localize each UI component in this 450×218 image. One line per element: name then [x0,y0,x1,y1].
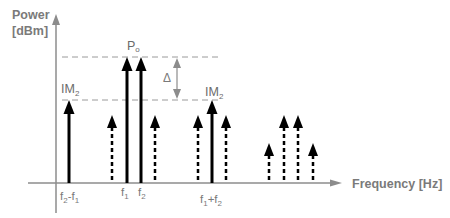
y-axis-arrowhead-icon [52,14,60,25]
arrowhead-icon [221,115,231,128]
im2-right-label: IM2 [205,85,224,101]
arrowhead-icon [136,57,147,71]
arrowhead-icon [207,100,218,114]
x-axis [28,180,342,187]
spur-line [107,115,117,183]
spur-line [193,115,203,183]
arrowhead-icon [107,115,117,128]
x-axis-arrowhead-icon [330,180,342,187]
im2-left-label: IM2 [61,82,80,98]
arrowhead-icon [264,143,274,156]
arrowhead-icon [64,100,75,114]
x-axis-label: Frequency [Hz] [352,177,442,191]
arrowhead-icon [279,115,289,128]
spectral-line-f2-minus-f1 [64,100,75,183]
intermodulation-spectrum-diagram: Power [dBm] Frequency [Hz] Δ [0,0,450,218]
f2-label: f2 [138,186,146,201]
y-axis-unit-label: [dBm] [12,24,48,38]
f1-label: f1 [121,186,129,201]
delta-double-arrow [173,58,181,99]
arrowhead-icon [122,57,133,71]
arrowhead-icon [293,115,303,128]
spectral-line-f1 [122,57,133,183]
spur-line [264,143,274,183]
f2-minus-f1-label: f2-f1 [60,190,80,205]
po-label: Po [127,39,140,54]
spur-line [221,115,231,183]
delta-label: Δ [163,71,171,85]
spur-line [150,115,160,183]
arrowhead-icon [308,143,318,156]
arrowhead-icon [150,115,160,128]
spur-line [293,115,303,183]
spur-line [279,115,289,183]
f1-plus-f2-label: f1+f2 [200,193,223,208]
arrowhead-icon [193,115,203,128]
spectral-line-f2 [136,57,147,183]
y-axis-label: Power [12,8,50,22]
spectral-line-f1-plus-f2 [207,100,218,183]
spur-line [308,143,318,183]
